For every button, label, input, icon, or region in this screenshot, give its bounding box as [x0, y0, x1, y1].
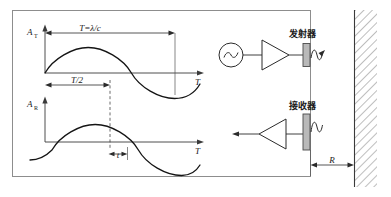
distance-label: R	[328, 155, 335, 165]
lower-time-arrowhead	[197, 139, 204, 144]
upper-amplitude-arrowhead	[42, 25, 47, 32]
distance-arrow-right	[348, 163, 355, 168]
figure-canvas: A T T T=λ/c T/2 A R T t	[0, 0, 391, 197]
transmit-amplifier-symbol	[262, 40, 289, 70]
half-period-label: T/2	[71, 75, 84, 85]
period-dimension-arrow-right	[169, 31, 176, 36]
transmitted-wave-arrowhead	[319, 50, 326, 57]
lower-amplitude-sublabel: R	[34, 105, 38, 111]
received-wave-icon	[311, 122, 323, 132]
receiver-transducer	[303, 114, 310, 150]
delay-arrow-left	[109, 152, 115, 156]
lower-amplitude-label: A	[26, 99, 33, 109]
sine-wave-icon	[224, 53, 238, 58]
half-period-arrow-left	[45, 83, 52, 88]
upper-time-label: T	[195, 77, 201, 87]
half-period-arrow-right	[104, 83, 111, 88]
transmitter-label: 发射器	[288, 28, 317, 39]
distance-arrow-left	[311, 163, 318, 168]
upper-amplitude-label: A	[26, 27, 33, 37]
wall-hatching	[355, 10, 377, 187]
transmitter-transducer	[303, 44, 310, 67]
lower-amplitude-arrowhead	[42, 97, 47, 104]
upper-time-arrowhead	[197, 70, 204, 75]
diagram-frame	[13, 11, 311, 177]
ultrasonic-measurement-figure: A T T T=λ/c T/2 A R T t	[0, 0, 391, 197]
delay-arrow-right	[122, 152, 128, 156]
receive-amplifier-symbol	[259, 119, 286, 149]
receiver-label: 接收器	[289, 100, 317, 111]
upper-amplitude-sublabel: T	[34, 33, 38, 39]
lower-time-label: T	[195, 146, 201, 156]
lower-waveform	[30, 125, 200, 176]
receive-output-arrowhead	[232, 131, 239, 136]
period-label: T=λ/c	[79, 23, 100, 33]
delay-label: t	[117, 150, 120, 160]
